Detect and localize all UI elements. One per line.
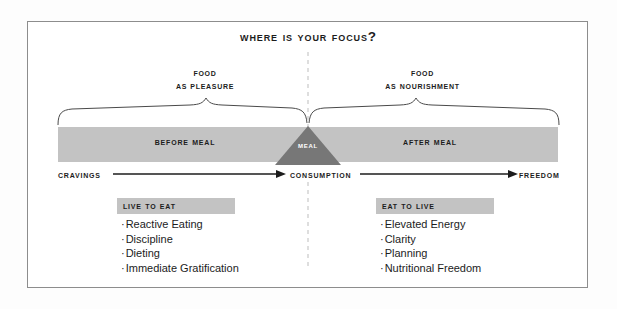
bullet-icon: · — [121, 233, 125, 245]
panel-eat-to-live: Eat to Live ·Elevated Energy ·Clarity ·P… — [376, 198, 494, 275]
axis-label-cravings: Cravings — [58, 169, 101, 180]
list-item-label: Reactive Eating — [126, 218, 203, 230]
list-item: ·Dieting — [121, 246, 239, 261]
bullet-icon: · — [121, 247, 125, 259]
bar-label-meal: Meal — [281, 140, 335, 150]
brace-label-right-line1: Food — [411, 67, 434, 78]
bullet-icon: · — [121, 218, 125, 230]
list-item-label: Planning — [385, 247, 428, 259]
bullet-icon: · — [380, 247, 384, 259]
list-item-label: Nutritional Freedom — [385, 262, 482, 274]
list-item-label: Clarity — [385, 233, 416, 245]
brace-label-left-line2: as Pleasure — [176, 80, 234, 91]
list-item: ·Reactive Eating — [121, 217, 239, 232]
axis-label-freedom: Freedom — [519, 169, 560, 180]
brace-label-right-line2: as Nourishment — [385, 80, 459, 91]
panel-right-list: ·Elevated Energy ·Clarity ·Planning ·Nut… — [376, 217, 494, 275]
bar-label-after-meal: After Meal — [355, 136, 505, 147]
axis-label-consumption: Consumption — [290, 169, 351, 180]
focus-diagram: Where Is Your Focus? Food as Pleasure Fo… — [0, 0, 617, 309]
bullet-icon: · — [380, 218, 384, 230]
brace-label-left-line1: Food — [193, 67, 216, 78]
brace-label-right: Food as Nourishment — [330, 66, 515, 92]
bullet-icon: · — [380, 262, 384, 274]
bullet-icon: · — [380, 233, 384, 245]
panel-live-to-eat: Live to Eat ·Reactive Eating ·Discipline… — [117, 198, 239, 275]
list-item-label: Discipline — [126, 233, 173, 245]
page-title: Where Is Your Focus? — [0, 29, 617, 44]
brace-label-left: Food as Pleasure — [120, 66, 290, 92]
list-item: ·Discipline — [121, 232, 239, 247]
panel-left-list: ·Reactive Eating ·Discipline ·Dieting ·I… — [117, 217, 239, 275]
bullet-icon: · — [121, 262, 125, 274]
panel-right-heading: Eat to Live — [376, 198, 494, 214]
list-item: ·Clarity — [380, 232, 494, 247]
bar-label-before-meal: Before Meal — [110, 136, 260, 147]
list-item-label: Dieting — [126, 247, 160, 259]
list-item-label: Immediate Gratification — [126, 262, 239, 274]
list-item: ·Elevated Energy — [380, 217, 494, 232]
panel-left-heading: Live to Eat — [117, 198, 235, 214]
list-item: ·Nutritional Freedom — [380, 261, 494, 276]
list-item: ·Planning — [380, 246, 494, 261]
list-item: ·Immediate Gratification — [121, 261, 239, 276]
list-item-label: Elevated Energy — [385, 218, 466, 230]
